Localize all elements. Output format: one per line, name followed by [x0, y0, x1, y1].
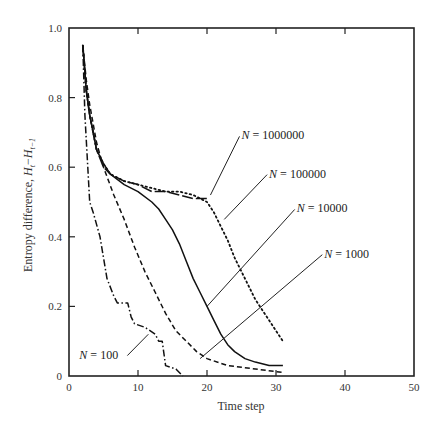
x-axis-label: Time step — [217, 399, 264, 413]
entropy-chart: 0102030405000.20.40.60.81.0 N = 1000000N… — [0, 0, 442, 427]
x-tick-label: 30 — [271, 381, 283, 393]
annotation-leader — [210, 136, 239, 195]
y-axis-label: Entropy difference, Ht−Ht−1 — [21, 138, 37, 272]
data-series — [83, 45, 283, 376]
series-10000 — [83, 45, 283, 365]
y-axis-label-sub2: t−1 — [28, 138, 37, 150]
annotation-label: N = 10000 — [296, 201, 348, 215]
x-tick-label: 40 — [340, 381, 352, 393]
annotation-leader — [200, 255, 322, 359]
axis-ticks: 0102030405000.20.40.60.81.0 — [48, 22, 420, 393]
series-100 — [83, 45, 183, 376]
x-tick-label: 10 — [133, 381, 145, 393]
y-tick-label: 0.2 — [48, 300, 62, 312]
series-1000000 — [83, 45, 207, 198]
annotation-label: N = 100000 — [268, 167, 326, 181]
annotation-label: N = 1000000 — [241, 128, 305, 142]
series-annotations: N = 1000000N = 100000N = 10000N = 1000N … — [78, 128, 369, 361]
x-tick-label: 20 — [202, 381, 214, 393]
y-tick-label: 0.4 — [48, 231, 62, 243]
annotation-leader — [224, 175, 267, 220]
y-tick-label: 0.8 — [48, 92, 62, 104]
x-tick-label: 50 — [409, 381, 421, 393]
series-1000 — [83, 45, 283, 372]
x-tick-label: 0 — [66, 381, 72, 393]
y-tick-label: 1.0 — [48, 22, 62, 34]
series-100000 — [83, 45, 283, 341]
annotation-leader — [127, 334, 148, 355]
annotation-label: N = 1000 — [323, 247, 369, 261]
y-axis-label-prefix: Entropy difference, — [21, 176, 35, 272]
y-tick-label: 0.6 — [48, 161, 62, 173]
y-tick-label: 0 — [57, 370, 63, 382]
annotation-label: N = 100 — [78, 348, 118, 362]
